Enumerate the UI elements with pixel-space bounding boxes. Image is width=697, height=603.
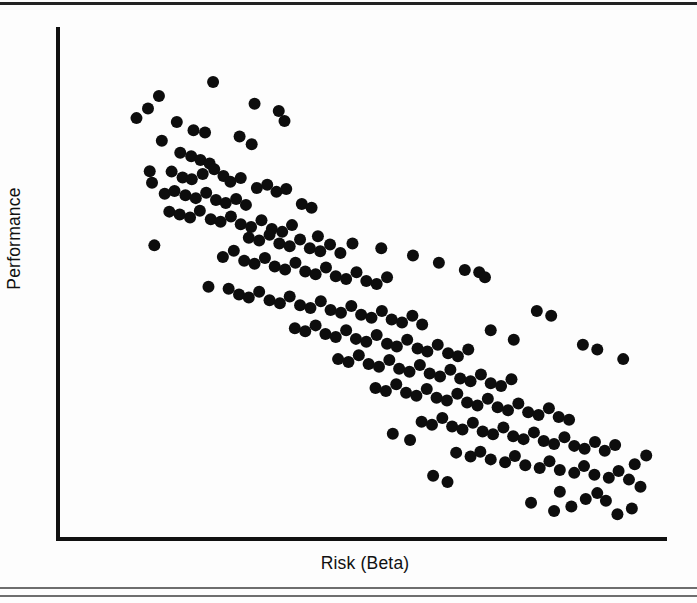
data-point: [386, 314, 398, 326]
data-point: [174, 209, 186, 221]
data-point: [148, 239, 160, 251]
data-point: [350, 333, 362, 345]
data-point: [370, 382, 382, 394]
bottom-divider-rule-lower: [0, 595, 697, 597]
data-point: [485, 377, 497, 389]
data-point: [171, 116, 183, 128]
data-point: [404, 434, 416, 446]
data-point: [548, 505, 560, 517]
data-point: [433, 257, 445, 269]
data-point: [345, 300, 357, 312]
data-point: [153, 90, 165, 102]
data-point: [289, 322, 301, 334]
data-point: [166, 166, 178, 178]
data-point: [188, 124, 200, 136]
data-point: [461, 397, 473, 409]
data-point: [330, 270, 342, 282]
data-point: [617, 353, 629, 365]
data-point: [534, 462, 546, 474]
data-point: [330, 331, 342, 343]
data-point: [217, 251, 229, 263]
data-point: [179, 189, 191, 201]
data-point: [304, 242, 316, 254]
data-point: [391, 341, 403, 353]
data-point: [163, 206, 175, 218]
data-point: [485, 324, 497, 336]
data-point: [467, 417, 479, 429]
figure-container: Performance Risk (Beta): [0, 0, 697, 603]
data-point: [363, 358, 375, 370]
data-point: [492, 401, 504, 413]
data-point: [459, 264, 471, 276]
data-point: [245, 221, 257, 233]
data-point: [495, 380, 507, 392]
data-point: [507, 430, 519, 442]
data-point: [355, 309, 367, 321]
data-point: [400, 387, 412, 399]
data-point: [410, 390, 422, 402]
data-point: [452, 350, 464, 362]
data-point: [414, 359, 426, 371]
data-point: [446, 421, 458, 433]
data-point: [294, 234, 306, 246]
data-point: [315, 295, 327, 307]
data-point: [457, 423, 469, 435]
data-point: [543, 402, 555, 414]
data-point: [325, 304, 337, 316]
data-point: [273, 237, 285, 249]
data-point: [579, 443, 591, 455]
data-point: [380, 385, 392, 397]
data-point: [146, 177, 158, 189]
data-point: [324, 238, 336, 250]
data-point: [142, 102, 154, 114]
data-point: [289, 257, 301, 269]
data-point: [502, 404, 514, 416]
data-point: [548, 438, 560, 450]
data-point: [563, 414, 575, 426]
data-point: [383, 354, 395, 366]
data-point: [223, 283, 235, 295]
data-point: [249, 258, 261, 270]
data-point: [454, 372, 466, 384]
data-point: [518, 433, 530, 445]
data-point: [444, 364, 456, 376]
data-point: [174, 147, 186, 159]
data-point: [451, 388, 463, 400]
data-point: [365, 312, 377, 324]
data-point: [479, 271, 491, 283]
data-point: [249, 98, 261, 110]
data-point: [577, 339, 589, 351]
data-point: [431, 392, 443, 404]
data-point: [390, 378, 402, 390]
top-divider-rule: [0, 2, 697, 5]
data-point: [522, 406, 534, 418]
data-point: [169, 185, 181, 197]
data-point: [427, 470, 439, 482]
data-point: [426, 419, 438, 431]
data-point: [471, 399, 483, 411]
data-point: [436, 412, 448, 424]
data-point: [519, 459, 531, 471]
data-point: [432, 339, 444, 351]
data-point: [497, 422, 509, 434]
data-point: [545, 310, 557, 322]
data-point: [465, 375, 477, 387]
data-point: [611, 508, 623, 520]
scatter-points-layer: [58, 27, 666, 539]
data-point: [144, 165, 156, 177]
data-point: [416, 318, 428, 330]
data-point: [558, 431, 570, 443]
bottom-divider-rule-upper: [0, 587, 697, 589]
data-point: [284, 240, 296, 252]
data-point: [371, 278, 383, 290]
data-point: [609, 439, 621, 451]
data-point: [531, 305, 543, 317]
data-points-group: [130, 76, 652, 520]
data-point: [235, 218, 247, 230]
data-point: [353, 349, 365, 361]
data-point: [600, 495, 612, 507]
data-point: [450, 447, 462, 459]
data-point: [351, 266, 363, 278]
data-point: [243, 232, 255, 244]
data-point: [591, 343, 603, 355]
